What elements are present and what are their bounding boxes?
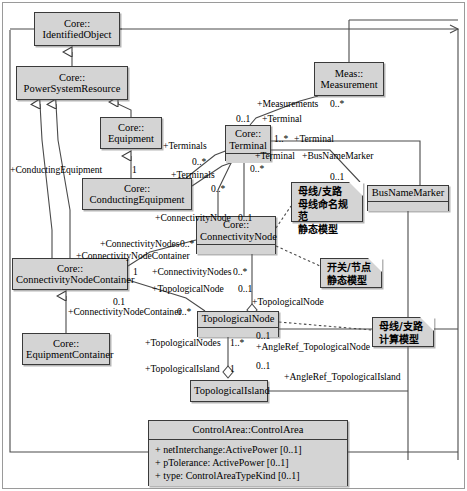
note-fold-icon [420,317,434,331]
class-title: TopologicalNode [198,312,278,327]
note-line: 静态模型 [298,224,357,237]
class-title: Core:: PowerSystemResource [17,67,127,99]
note-bus-calc-model[interactable]: 母线/支路 计算模型 [372,317,434,347]
class-namespace: Core:: [229,128,267,140]
class-name: EquipmentContainer [26,349,106,361]
class-name: ConductingEquipment [86,194,188,206]
attribute-row: + pTolerance: ActivePower [0..1] [155,456,341,469]
label-measurements-multiplicity: 0..* [330,98,344,109]
label-topological-node-a-multiplicity: 0..1 [238,283,252,294]
label-terminals-b-multiplicity: 0..* [211,183,225,194]
label-measurements: +Measurements [257,98,318,109]
label-connectivity-node-container-multiplicity: 1 [133,266,138,277]
label-connectivity-node: +ConnectivityNode [155,212,231,223]
label-terminals-a: +Terminals [163,140,207,151]
class-control-area[interactable]: ControlArea::ControlArea + netInterchang… [148,420,348,486]
note-switch-node[interactable]: 开关/节点 静态模型 [320,258,382,288]
label-conducting-equipment-multiplicity: 1 [132,164,137,175]
label-terminals-a-multiplicity: 0..* [192,156,206,167]
label-terminal-c-multiplicity: 0..* [250,163,264,174]
class-equipment[interactable]: Core:: Equipment [100,117,162,149]
label-bus-name-marker: +BusNameMarker [302,150,373,161]
class-title: TopologicalIsland [191,381,267,401]
note-fold-icon [368,258,382,272]
class-name: Measurement [318,79,380,91]
note-line: 母线命名规范 [298,199,357,224]
class-namespace: Core:: [86,183,188,195]
class-title: Core:: Terminal [226,126,270,153]
label-terminal-multiplicity-01: 0..1 [236,113,250,124]
class-name: PowerSystemResource [20,83,124,95]
label-conducting-equipment: +ConductingEquipment [10,164,102,175]
label-bus-name-marker-multiplicity: 0..1 [330,171,344,182]
class-namespace: Meas:: [318,68,380,80]
class-namespace: Core:: [38,18,116,30]
class-compartment [368,201,448,211]
class-topological-island[interactable]: TopologicalIsland [190,380,268,402]
class-title: Core:: Equipment [101,118,161,148]
class-name: IdentifiedObject [38,29,116,41]
class-attributes: + netInterchange:ActivePower [0..1] + pT… [149,439,347,486]
label-terminal-c: +Terminal [255,150,295,161]
class-name: BusNameMarker [371,187,445,199]
label-topological-node-a: +TopologicalNode [152,283,224,294]
label-angle-ref-topological-node: +AngleRef_TopologicalNode [256,341,370,352]
class-title: Meas:: Measurement [315,63,383,95]
label-connectivity-node-container-b: +ConnectivityNodeContainer [68,306,182,317]
class-title: Core:: IdentifiedObject [35,13,119,45]
class-namespace: Core:: [16,263,124,275]
note-line: 静态模型 [327,275,376,288]
class-title: Core:: EquipmentContainer [23,334,109,364]
label-angle-ref-node-multiplicity: 0..1 [256,330,270,341]
label-angle-ref-topological-island: +AngleRef_TopologicalIsland [284,371,401,382]
class-name: ConnectivityNode [200,231,272,243]
class-name: Equipment [104,133,158,145]
label-connectivity-nodes-b-multiplicity: 0..* [233,266,247,277]
label-connectivity-node-container-01: 0.1 [113,296,125,307]
class-name: ConnectivityNodeContainer [16,274,124,286]
class-equipment-container[interactable]: Core:: EquipmentContainer [22,333,110,365]
label-connectivity-nodes-a: +ConnectivityNodes [100,238,180,249]
note-bus-naming[interactable]: 母线/支路 母线命名规范 静态模型 [291,182,363,222]
note-line: 母线/支路 [298,186,357,199]
class-bus-name-marker[interactable]: BusNameMarker [367,185,449,211]
class-namespace: Core:: [104,122,158,134]
attribute-row: + netInterchange:ActivePower [0..1] [155,443,341,456]
label-topological-island: +TopologicalIsland [145,363,220,374]
label-connectivity-node-container-b-multiplicity: 0..* [177,306,191,317]
class-title: Core:: ConnectivityNodeContainer [13,259,127,289]
class-namespace: Core:: [20,72,124,84]
class-title: ControlArea::ControlArea [149,421,347,439]
label-topological-island-multiplicity: 1 [230,363,235,374]
class-compartment [197,244,275,254]
class-title: Core:: ConductingEquipment [83,179,191,209]
class-power-system-resource[interactable]: Core:: PowerSystemResource [16,66,128,100]
note-line: 计算模型 [379,334,428,347]
class-title: BusNameMarker [368,186,448,201]
class-connectivity-node-container[interactable]: Core:: ConnectivityNodeContainer [12,258,128,290]
uml-diagram-canvas: Core:: IdentifiedObject Core:: PowerSyst… [0,0,467,491]
class-measurement[interactable]: Meas:: Measurement [314,62,384,96]
label-terminal-a: +Terminal [262,113,302,124]
label-connectivity-node-container-a: +ConnectivityNodeContainer [76,250,190,261]
label-terminal-b: +Terminal [294,133,334,144]
class-name: TopologicalIsland [194,385,264,397]
label-connectivity-node-multiplicity: 0..1 [238,212,252,223]
label-topological-nodes: +TopologicalNodes [145,337,221,348]
label-angle-ref-island-multiplicity: 0..1 [256,360,270,371]
label-topological-node-b: +TopologicalNode [252,296,324,307]
class-identified-object[interactable]: Core:: IdentifiedObject [34,12,120,46]
attribute-row: + type: ControlAreaTypeKind [0..1] [155,469,341,482]
label-connectivity-nodes-b: +ConnectivityNodes [152,266,232,277]
class-conducting-equipment[interactable]: Core:: ConductingEquipment [82,178,192,210]
label-terminals-b: +Terminals [171,169,215,180]
class-namespace: Core:: [26,338,106,350]
label-topological-nodes-multiplicity: 1..* [230,337,244,348]
note-text: 母线/支路 母线命名规范 静态模型 [298,186,357,236]
note-fold-icon [349,182,363,196]
label-connectivity-nodes-a-multiplicity: 0..* [180,238,194,249]
class-name: TopologicalNode [201,313,275,325]
label-terminal-multiplicity-1star: 1..* [274,133,288,144]
class-name: ControlArea::ControlArea [152,424,344,436]
